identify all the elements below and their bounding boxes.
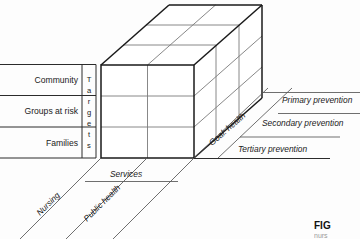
targets-axis-letter-4: e [87, 119, 91, 128]
label-secondary-prevention: Secondary prevention [262, 118, 344, 128]
targets-axis-group: Community Groups at risk Families T a r … [0, 65, 96, 159]
figure-caption-title: FIG [314, 220, 358, 231]
figure-caption-subtitle: nurs [314, 231, 358, 239]
targets-label-families: Families [46, 138, 78, 148]
label-tertiary-prevention: Tertiary prevention [238, 144, 307, 154]
label-public-health: Public health [81, 182, 122, 223]
targets-axis-letter-2: r [88, 97, 91, 106]
cube-group [101, 5, 262, 158]
services-axis-group: Services Nursing Public health [20, 158, 194, 239]
figure-root: Community Groups at risk Families T a r … [0, 0, 360, 239]
targets-axis-letter-0: T [87, 75, 92, 84]
targets-axis-letter-1: a [87, 86, 92, 95]
figure-caption: FIG nurs [314, 220, 358, 239]
label-nursing: Nursing [34, 190, 62, 218]
targets-axis-letter-6: s [87, 141, 91, 150]
targets-label-community: Community [35, 75, 79, 85]
cube-diagram: Community Groups at risk Families T a r … [0, 0, 360, 239]
targets-axis-letter-3: g [87, 108, 91, 117]
targets-axis-letter-5: t [88, 130, 91, 139]
label-primary-prevention: Primary prevention [282, 95, 353, 105]
targets-label-groups-at-risk: Groups at risk [25, 106, 79, 116]
services-ray-0 [20, 158, 101, 239]
label-services: Services [110, 169, 143, 179]
